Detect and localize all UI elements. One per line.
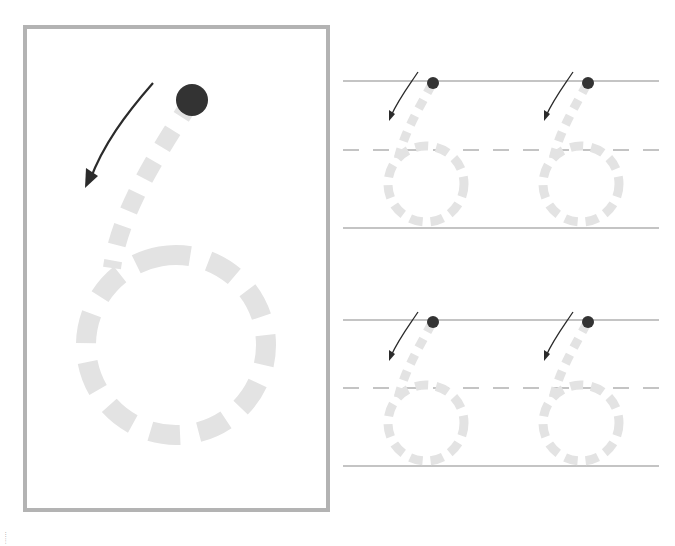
practice-row-2 [343,312,659,466]
start-dot-icon [582,316,594,328]
model-digit-six [72,83,281,449]
start-dot-icon [582,77,594,89]
trace-six-1a [388,72,464,222]
arrow-head-icon [85,168,98,188]
start-dot-icon [427,316,439,328]
direction-arrow-icon [391,312,418,356]
start-dot-icon [427,77,439,89]
trace-six-2b [543,312,619,461]
direction-arrow-icon [391,72,418,116]
practice-row-1 [343,72,659,228]
direction-arrow-icon [546,72,573,116]
direction-arrow-icon [546,312,573,356]
start-dot-icon [176,84,208,116]
side-label: ...... [1,508,9,544]
worksheet-canvas [0,0,675,546]
model-trace-loop [72,241,281,450]
trace-six-1b [543,72,619,222]
model-trace-tail [112,100,192,268]
trace-six-2a [388,312,464,461]
